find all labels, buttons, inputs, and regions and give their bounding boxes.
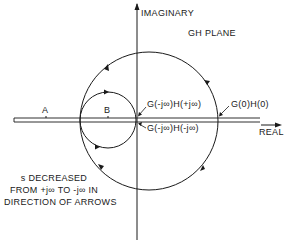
direction-arrow-icon: [104, 90, 109, 95]
imaginary-axis-label: IMAGINARY: [141, 9, 194, 18]
nyquist-diagram: IMAGINARY GH PLANE A B G(-j∞)H(+j∞) G(-j…: [0, 0, 289, 246]
point-a-label: A: [42, 106, 48, 115]
note-line-2: FROM +j∞ TO -j∞ IN: [4, 184, 104, 196]
direction-arrow-icon: [204, 80, 210, 85]
real-axis-label: REAL: [259, 128, 284, 137]
small-contour-circle: [80, 92, 136, 148]
direction-note: s DECREASED FROM +j∞ TO -j∞ IN DIRECTION…: [4, 172, 104, 208]
plane-title: GH PLANE: [188, 29, 236, 38]
annotation-g0-h0: G(0)H(0): [231, 100, 269, 109]
direction-arrow-icon: [95, 145, 100, 150]
point-b-label: B: [104, 106, 110, 115]
note-line-3: DIRECTION OF ARROWS: [4, 196, 104, 208]
imaginary-arrow-icon: [135, 3, 140, 10]
annotation-g-minus-jinf-h-minus-jinf: G(-j∞)H(-j∞): [147, 124, 199, 133]
note-line-1: s DECREASED: [4, 172, 104, 184]
diagram-graphics: [0, 0, 289, 246]
annotation-g-minus-jinf-h-plus-jinf: G(-j∞)H(+j∞): [147, 100, 201, 109]
